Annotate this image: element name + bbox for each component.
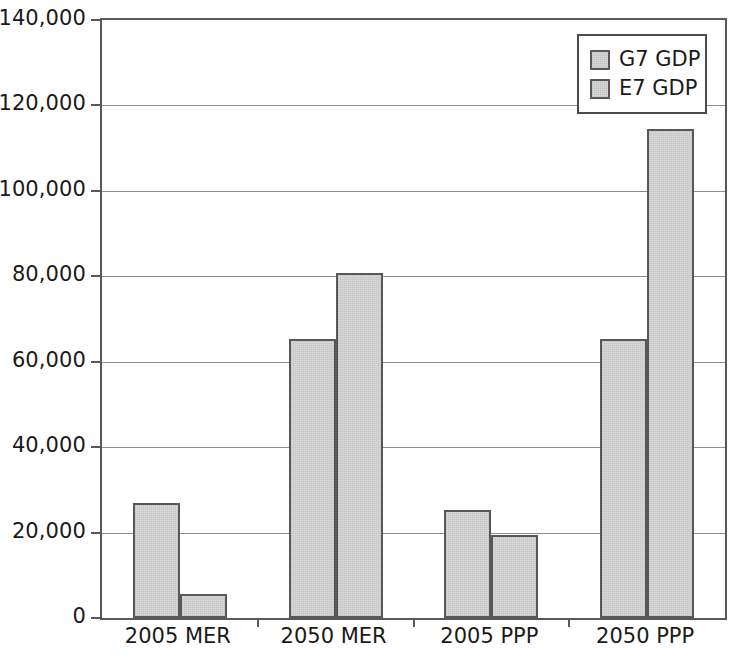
y-axis-tick-label: 40,000 [12,435,86,456]
bar [647,129,694,618]
y-axis-tick-mark [91,104,101,106]
bar [180,594,227,618]
y-axis-tick-label: 0 [73,606,86,627]
y-axis-tick-label: 120,000 [0,93,86,114]
y-axis-tick-labels: 020,00040,00060,00080,000100,000120,0001… [0,0,86,666]
y-axis-tick-label: 100,000 [0,178,86,199]
legend-item-label: G7 GDP [619,49,700,70]
legend-swatch-icon [590,79,610,99]
y-axis-tick-label: 80,000 [12,264,86,285]
y-axis-tick-mark [91,275,101,277]
y-axis-tick-mark [91,617,101,619]
bar [336,273,383,618]
legend-item[interactable]: E7 GDP [590,74,695,103]
bar [289,339,336,618]
y-axis-tick-mark [91,19,101,21]
bar [133,503,180,618]
y-axis-tick-mark [91,532,101,534]
legend: G7 GDPE7 GDP [577,34,707,114]
x-axis-category-label: 2005 MER [125,624,231,649]
legend-item-label: E7 GDP [619,78,697,99]
bar-chart: 020,00040,00060,00080,000100,000120,0001… [0,0,734,666]
y-axis-tick-label: 140,000 [0,8,86,29]
bar [600,339,647,618]
bar [491,535,538,618]
y-axis-tick-label: 20,000 [12,520,86,541]
y-axis-tick-mark [91,361,101,363]
y-axis-tick-label: 60,000 [12,349,86,370]
bar [444,510,491,618]
legend-item[interactable]: G7 GDP [590,45,695,74]
x-axis-category-labels: 2005 MER2050 MER2005 PPP2050 PPP [100,624,723,658]
y-axis-tick-mark [91,446,101,448]
legend-swatch-icon [590,50,610,70]
x-axis-category-label: 2050 PPP [596,624,694,649]
x-axis-category-label: 2005 PPP [440,624,538,649]
x-axis-category-label: 2050 MER [281,624,387,649]
y-axis-tick-mark [91,190,101,192]
